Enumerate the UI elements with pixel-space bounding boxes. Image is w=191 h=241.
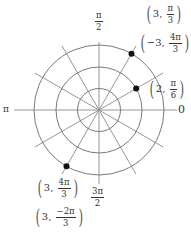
spoke-210deg	[35, 110, 99, 147]
paren-close: )	[184, 33, 189, 53]
paren-close: )	[180, 79, 185, 99]
spoke-330deg	[99, 110, 163, 147]
spoke-300deg	[99, 110, 136, 174]
label-numerator: 4π	[169, 33, 182, 44]
label-denominator: 2	[95, 198, 100, 208]
point-dot-1	[129, 51, 135, 57]
label-numerator: π	[170, 79, 178, 90]
label-3pi-over-2: 3π2	[90, 187, 105, 207]
point-dot-3	[64, 163, 70, 169]
label-pi-over-2: π2	[94, 11, 104, 31]
label-numerator: π	[167, 4, 175, 15]
point-label-2-pi-6: ( 2, π6 )	[148, 79, 186, 99]
paren-open: (	[36, 207, 41, 227]
comma: ,	[162, 84, 168, 94]
point-label-3-neg2pi-3: ( 3, −2π3 )	[34, 207, 84, 227]
label-zero: 0	[178, 104, 185, 115]
point-label-3-pi-3: ( 3, π3 )	[145, 4, 183, 24]
comma: ,	[50, 183, 56, 193]
paren-open: (	[141, 33, 146, 53]
point-dot-2	[133, 86, 139, 92]
label-r: −3	[147, 38, 162, 48]
label-numerator: 3π	[91, 187, 104, 198]
paren-close: )	[78, 207, 83, 227]
point-label-3-4pi-3: ( 3, 4π3 )	[36, 178, 79, 198]
comma: ,	[162, 38, 168, 48]
label-numerator: 4π	[58, 178, 71, 189]
label-numerator: −2π	[56, 207, 76, 218]
paren-open: (	[38, 178, 43, 198]
label-denominator: 3	[173, 44, 178, 54]
label-denominator: 3	[168, 15, 173, 25]
comma: ,	[48, 212, 54, 222]
spoke-120deg	[62, 46, 99, 110]
label-numerator: π	[95, 11, 103, 22]
label-denominator: 3	[63, 218, 68, 228]
paren-close: )	[73, 178, 78, 198]
paren-close: )	[177, 4, 182, 24]
label-denominator: 2	[96, 22, 101, 32]
comma: ,	[159, 9, 165, 19]
label-denominator: 6	[171, 90, 176, 100]
paren-open: (	[147, 4, 152, 24]
label-pi: π	[3, 105, 9, 114]
label-denominator: 3	[61, 189, 66, 199]
point-label-neg3-4pi-3: ( −3, 4π3 )	[139, 33, 191, 53]
spoke-150deg	[35, 73, 99, 110]
label-text: π	[3, 105, 9, 114]
paren-open: (	[150, 79, 155, 99]
label-text: 0	[178, 104, 185, 115]
